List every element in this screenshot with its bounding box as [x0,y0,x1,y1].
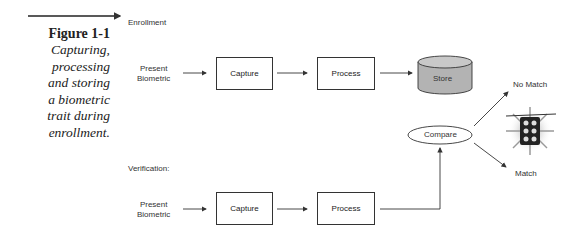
caption-line: Capturing, [40,42,110,59]
enrollment-capture-box: Capture [216,57,273,90]
caption-line: a biometric [40,92,110,109]
compare-label: Compare [424,130,457,139]
verification-process-box: Process [317,192,375,225]
verification-input-label: PresentBiometric [137,200,170,220]
figure-caption: Figure 1-1 Capturing, processing and sto… [40,25,110,141]
caption-line: enrollment. [40,125,110,142]
match-label: Match [515,169,537,178]
enrollment-label: Enrollment [128,18,166,27]
caption-line: and storing [40,75,110,92]
figure-number: Figure 1-1 [40,25,110,42]
verification-capture-box: Capture [216,192,273,225]
no-match-label: No Match [513,80,547,89]
enrollment-input-label: PresentBiometric [137,64,170,84]
store-label: Store [433,74,452,83]
caption-line: processing [40,59,110,76]
caption-line: trait during [40,108,110,125]
traffic-light-icon [506,107,556,155]
enrollment-process-box: Process [317,57,375,90]
verification-label: Verification: [128,164,169,173]
